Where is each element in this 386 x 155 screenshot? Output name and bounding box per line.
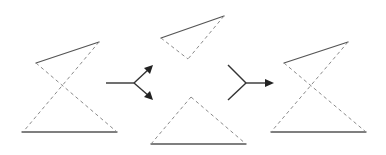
merge-arrow-icon <box>228 65 274 100</box>
diagram-canvas <box>0 0 386 155</box>
split-arrow-icon <box>106 65 153 100</box>
input-hourglass-shape <box>22 42 117 132</box>
top-triangle-shape <box>161 16 224 59</box>
bottom-triangle-shape <box>151 97 246 144</box>
output-hourglass-shape <box>271 42 366 132</box>
